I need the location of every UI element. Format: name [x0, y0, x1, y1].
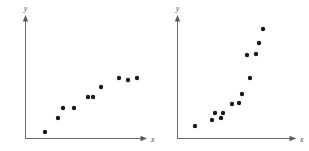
data-point [117, 76, 121, 80]
data-point [86, 95, 90, 99]
data-point [213, 111, 217, 115]
data-point [61, 106, 65, 110]
data-point [240, 92, 244, 96]
data-point [230, 102, 234, 106]
left-y-axis-label: y [23, 4, 28, 13]
data-point [193, 124, 197, 128]
two-panel-scatterplot-figure: y x y x [0, 0, 309, 151]
data-point [72, 106, 76, 110]
data-point [248, 76, 252, 80]
data-point [56, 116, 60, 120]
right-y-axis-label: y [175, 4, 180, 13]
data-point [245, 53, 249, 57]
figure-background [0, 0, 309, 151]
data-point [237, 101, 241, 105]
data-point [135, 76, 139, 80]
data-point [221, 111, 225, 115]
data-point [43, 130, 47, 134]
data-point [99, 85, 103, 89]
data-point [254, 52, 258, 56]
right-x-axis-label: x [299, 135, 304, 144]
data-point [126, 78, 130, 82]
data-point [219, 116, 223, 120]
data-point [257, 41, 261, 45]
data-point [210, 118, 214, 122]
data-point [91, 95, 95, 99]
left-x-axis-label: x [150, 135, 155, 144]
data-point [261, 27, 265, 31]
